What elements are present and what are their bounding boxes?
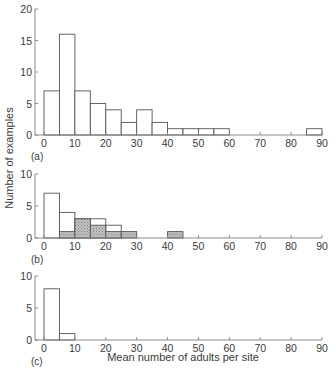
x-tick-label: 50 xyxy=(193,240,205,252)
panel-tag: (b) xyxy=(31,254,43,265)
open-bar xyxy=(59,34,74,135)
y-tick-label: 5 xyxy=(26,302,32,314)
x-tick-label: 80 xyxy=(285,240,297,252)
open-bar xyxy=(44,193,59,238)
open-bar xyxy=(75,91,90,135)
x-axis-label: Mean number of adults per site xyxy=(107,351,259,363)
y-tick-label: 5 xyxy=(26,200,32,212)
open-bar xyxy=(90,104,105,136)
x-tick-label: 10 xyxy=(69,240,81,252)
shaded-bar xyxy=(168,232,183,238)
open-bar xyxy=(183,129,198,135)
y-tick-label: 5 xyxy=(26,98,32,110)
open-bar xyxy=(44,91,59,135)
x-tick-label: 0 xyxy=(41,137,47,149)
panel-b: 05100102030405060708090(b) xyxy=(20,168,328,265)
x-tick-label: 10 xyxy=(69,137,81,149)
x-tick-label: 80 xyxy=(285,137,297,149)
y-tick-label: 0 xyxy=(26,129,32,141)
x-tick-label: 10 xyxy=(69,342,81,354)
open-bar xyxy=(59,334,74,340)
histogram-svg: 051015200102030405060708090(a)0510010203… xyxy=(0,0,336,376)
x-tick-label: 40 xyxy=(162,240,174,252)
x-tick-label: 0 xyxy=(41,240,47,252)
panel-tag: (a) xyxy=(31,151,43,162)
y-tick-label: 0 xyxy=(26,232,32,244)
open-bar xyxy=(106,110,121,135)
panel-a: 051015200102030405060708090(a) xyxy=(20,3,328,162)
y-tick-label: 10 xyxy=(20,270,32,282)
x-tick-label: 20 xyxy=(100,137,112,149)
x-tick-label: 70 xyxy=(254,240,266,252)
open-bar xyxy=(137,110,152,135)
open-bar xyxy=(121,122,136,135)
y-axis-label: Number of examples xyxy=(3,107,15,209)
open-bar xyxy=(44,289,59,340)
x-tick-label: 70 xyxy=(254,137,266,149)
x-tick-label: 0 xyxy=(41,342,47,354)
y-tick-label: 15 xyxy=(20,35,32,47)
shaded-bar xyxy=(59,232,74,238)
y-tick-label: 10 xyxy=(20,66,32,78)
x-tick-label: 30 xyxy=(131,240,143,252)
x-tick-label: 60 xyxy=(223,137,235,149)
y-tick-label: 10 xyxy=(20,168,32,180)
shaded-bar xyxy=(106,232,121,238)
x-tick-label: 80 xyxy=(285,342,297,354)
x-tick-label: 90 xyxy=(316,240,328,252)
x-tick-label: 30 xyxy=(131,137,143,149)
shaded-bar xyxy=(90,225,105,238)
open-bar xyxy=(214,129,229,135)
x-tick-label: 20 xyxy=(100,240,112,252)
x-tick-label: 60 xyxy=(223,240,235,252)
y-tick-label: 0 xyxy=(26,334,32,346)
open-bar xyxy=(307,129,322,135)
shaded-bar xyxy=(75,219,90,238)
histogram-figure: 051015200102030405060708090(a)0510010203… xyxy=(0,0,336,376)
open-bar xyxy=(152,122,167,135)
x-tick-label: 40 xyxy=(162,137,174,149)
shaded-bar xyxy=(121,232,136,238)
panel-tag: (c) xyxy=(31,356,43,367)
x-tick-label: 50 xyxy=(193,137,205,149)
open-bar xyxy=(198,129,213,135)
x-tick-label: 90 xyxy=(316,137,328,149)
open-bar xyxy=(168,129,183,135)
x-tick-label: 90 xyxy=(316,342,328,354)
y-tick-label: 20 xyxy=(20,3,32,15)
